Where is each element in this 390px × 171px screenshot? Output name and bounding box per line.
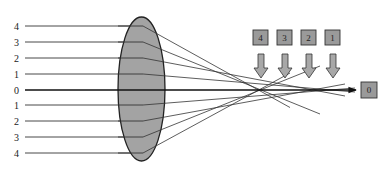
- ray-label: 2: [14, 116, 19, 127]
- ray-labels: 4 3 2 1 0 1 2 3 4: [14, 21, 19, 159]
- ray-label: 3: [14, 132, 19, 143]
- ray-label: 0: [14, 85, 19, 96]
- down-arrow-icon: [302, 54, 316, 78]
- focus-arrows: [254, 54, 340, 78]
- convex-lens: [118, 17, 165, 161]
- down-arrow-icon: [254, 54, 268, 78]
- lens-diagram: 4 3 2 1 0 1 2 3 4 4 3 2 1: [0, 0, 390, 171]
- ray-label: 2: [14, 53, 19, 64]
- focus-box-4: 4: [253, 30, 268, 45]
- down-arrow-icon: [278, 54, 292, 78]
- ray-label: 3: [14, 37, 19, 48]
- focus-box-3: 3: [277, 30, 292, 45]
- svg-text:1: 1: [330, 33, 335, 43]
- ray-label: 1: [14, 69, 19, 80]
- ray-label: 4: [14, 148, 19, 159]
- svg-text:0: 0: [367, 85, 372, 95]
- ray-label: 4: [14, 21, 19, 32]
- svg-text:2: 2: [306, 33, 311, 43]
- focus-box-1: 1: [325, 30, 340, 45]
- ray-label: 1: [14, 100, 19, 111]
- focus-boxes: 4 3 2 1: [253, 30, 340, 45]
- axis-box-0: 0: [361, 82, 377, 98]
- svg-text:4: 4: [258, 33, 263, 43]
- down-arrow-icon: [326, 54, 340, 78]
- svg-text:3: 3: [282, 33, 287, 43]
- focus-box-2: 2: [301, 30, 316, 45]
